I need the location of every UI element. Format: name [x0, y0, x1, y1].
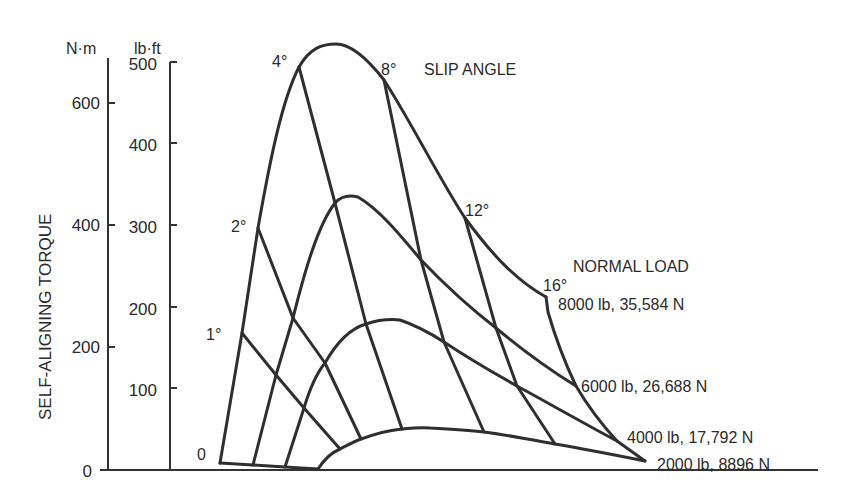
slip-label-4: 4°: [272, 53, 287, 70]
lbft-tick-label-500: 500: [129, 55, 157, 74]
load-curves: [220, 44, 645, 469]
slip-label-8: 8°: [381, 61, 396, 78]
load-curve-2000: [318, 428, 645, 469]
lbft-tick-label-300: 300: [129, 218, 157, 237]
load-label-4000: 4000 lb, 17,792 N: [627, 429, 753, 446]
lbft-tick-label-100: 100: [129, 381, 157, 400]
slip-line-12: [465, 218, 555, 444]
slip-label-12: 12°: [465, 202, 489, 219]
load-label-6000: 6000 lb, 26,688 N: [581, 378, 707, 395]
lbft-tick-label-400: 400: [129, 136, 157, 155]
slip-label-16: 16°: [543, 277, 567, 294]
slip-line-1: [242, 333, 340, 449]
self-aligning-torque-chart: N·m lb·ft 600 400 200 0 500 400 300 200 …: [0, 0, 850, 499]
nm-tick-label-200: 200: [72, 338, 100, 357]
nm-tick-label-0: 0: [83, 462, 92, 481]
slip-label-1: 1°: [206, 326, 221, 343]
slip-angle-title: SLIP ANGLE: [424, 61, 516, 78]
slip-label-0: 0: [197, 446, 206, 463]
normal-load-title: NORMAL LOAD: [573, 258, 689, 275]
nm-tick-label-400: 400: [72, 216, 100, 235]
lbft-tick-label-200: 200: [129, 300, 157, 319]
slip-line-8: [384, 80, 484, 432]
slip-label-2: 2°: [231, 218, 246, 235]
load-label-8000: 8000 lb, 35,584 N: [558, 296, 684, 313]
slip-line-0: [220, 463, 318, 469]
load-label-2000: 2000 lb, 8896 N: [657, 456, 770, 473]
nm-unit-label: N·m: [66, 40, 96, 57]
axes: [100, 58, 818, 470]
y-axis-title: SELF-ALIGNING TORQUE: [36, 214, 55, 420]
nm-tick-label-600: 600: [72, 94, 100, 113]
